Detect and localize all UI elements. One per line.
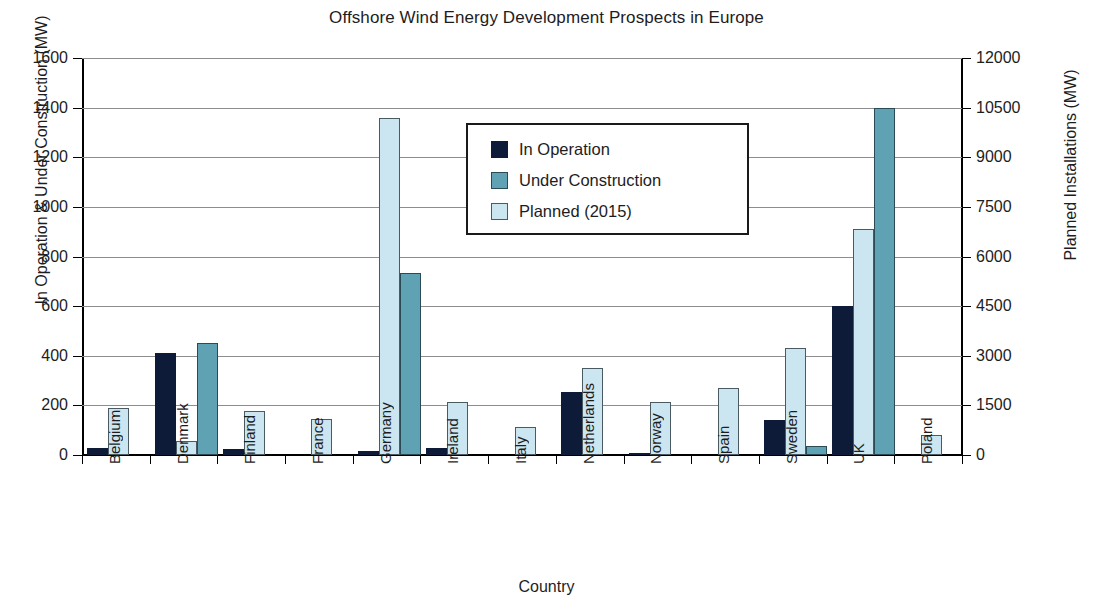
gridline bbox=[82, 257, 962, 258]
plot-area bbox=[82, 58, 962, 455]
y-axis-left-tick-label: 1600 bbox=[32, 49, 68, 67]
bar bbox=[155, 353, 176, 455]
y-axis-left-tick-label: 0 bbox=[59, 446, 68, 464]
x-axis-tick bbox=[894, 456, 895, 464]
x-axis-tick bbox=[962, 456, 963, 464]
x-axis-category-label: Belgium bbox=[106, 410, 123, 464]
y-axis-right-tick bbox=[962, 306, 971, 307]
y-axis-right-tick bbox=[962, 108, 971, 109]
bar bbox=[764, 420, 785, 455]
x-axis-tick bbox=[691, 456, 692, 464]
y-axis-right-tick-label: 4500 bbox=[976, 297, 1012, 315]
y-axis-left-tick bbox=[73, 405, 82, 406]
bar bbox=[561, 392, 582, 455]
y-axis-left-tick-label: 1000 bbox=[32, 198, 68, 216]
y-axis-left-tick bbox=[73, 455, 82, 456]
x-axis-category-label: UK bbox=[850, 443, 867, 464]
y-axis-left-tick bbox=[73, 356, 82, 357]
legend-label-planned: Planned (2015) bbox=[519, 202, 632, 221]
bar bbox=[400, 273, 421, 455]
y-axis-right-tick-label: 6000 bbox=[976, 248, 1012, 266]
y-axis-right-tick-label: 3000 bbox=[976, 347, 1012, 365]
gridline bbox=[82, 58, 962, 59]
x-axis-tick bbox=[759, 456, 760, 464]
x-axis-tick bbox=[353, 456, 354, 464]
x-axis-tick bbox=[150, 456, 151, 464]
x-axis-tick bbox=[82, 456, 83, 464]
x-axis-category-label: Spain bbox=[715, 426, 732, 464]
x-axis-tick bbox=[556, 456, 557, 464]
bar bbox=[806, 446, 827, 455]
legend-label-in-operation: In Operation bbox=[519, 140, 610, 159]
y-axis-right-tick-label: 1500 bbox=[976, 396, 1012, 414]
chart-title: Offshore Wind Energy Development Prospec… bbox=[0, 8, 1093, 28]
y-axis-right-tick-label: 10500 bbox=[976, 99, 1021, 117]
gridline bbox=[82, 108, 962, 109]
y-axis-right-tick bbox=[962, 356, 971, 357]
x-axis-category-label: France bbox=[309, 417, 326, 464]
bar bbox=[197, 343, 218, 455]
bar bbox=[87, 448, 108, 455]
y-axis-left-tick-label: 200 bbox=[41, 396, 68, 414]
legend-item-planned: Planned (2015) bbox=[491, 196, 747, 227]
x-axis-category-label: Netherlands bbox=[580, 383, 597, 464]
x-axis-tick bbox=[420, 456, 421, 464]
x-axis-tick bbox=[488, 456, 489, 464]
bar bbox=[874, 108, 895, 455]
y-axis-right-tick bbox=[962, 405, 971, 406]
legend-item-in-operation: In Operation bbox=[491, 134, 747, 165]
chart-legend: In Operation Under Construction Planned … bbox=[466, 123, 749, 235]
x-axis-tick bbox=[285, 456, 286, 464]
x-axis-tick bbox=[827, 456, 828, 464]
x-axis-category-label: Finland bbox=[241, 415, 258, 464]
legend-swatch-icon-under-construction bbox=[491, 172, 508, 189]
y-axis-left-tick bbox=[73, 257, 82, 258]
y-axis-right-tick bbox=[962, 257, 971, 258]
y-axis-left-tick-label: 600 bbox=[41, 297, 68, 315]
x-axis-category-label: Norway bbox=[647, 413, 664, 464]
y-axis-left-tick bbox=[73, 207, 82, 208]
y-axis-right-tick-label: 12000 bbox=[976, 49, 1021, 67]
y-axis-right-tick bbox=[962, 58, 971, 59]
y-axis-right-tick bbox=[962, 157, 971, 158]
x-axis-category-label: Denmark bbox=[174, 403, 191, 464]
bar bbox=[832, 306, 853, 455]
x-axis-tick bbox=[217, 456, 218, 464]
bar bbox=[358, 451, 379, 455]
legend-item-under-construction: Under Construction bbox=[491, 165, 747, 196]
legend-swatch-icon-in-operation bbox=[491, 141, 508, 158]
x-axis-category-label: Poland bbox=[918, 417, 935, 464]
y-axis-left-tick-label: 800 bbox=[41, 248, 68, 266]
y-axis-right-tick-label: 9000 bbox=[976, 148, 1012, 166]
y-axis-right-tick-label: 7500 bbox=[976, 198, 1012, 216]
legend-swatch-icon-planned bbox=[491, 203, 508, 220]
y-axis-left-tick-label: 1400 bbox=[32, 99, 68, 117]
y-axis-left-tick bbox=[73, 108, 82, 109]
x-axis-title: Country bbox=[0, 578, 1093, 596]
y-axis-left-tick bbox=[73, 58, 82, 59]
y-axis-right-title: Planned Installations (MW) bbox=[1061, 20, 1081, 310]
gridline bbox=[82, 306, 962, 307]
bar bbox=[853, 229, 874, 455]
x-axis-category-label: Ireland bbox=[444, 418, 461, 464]
y-axis-left-tick bbox=[73, 157, 82, 158]
legend-label-under-construction: Under Construction bbox=[519, 171, 661, 190]
x-axis-category-label: Sweden bbox=[783, 410, 800, 464]
x-axis-category-label: Italy bbox=[512, 436, 529, 464]
y-axis-left-tick-label: 1200 bbox=[32, 148, 68, 166]
y-axis-left-tick bbox=[73, 306, 82, 307]
x-axis-tick bbox=[624, 456, 625, 464]
y-axis-right-tick bbox=[962, 207, 971, 208]
chart-figure: Offshore Wind Energy Development Prospec… bbox=[0, 0, 1093, 612]
y-axis-right-tick-label: 0 bbox=[976, 446, 985, 464]
y-axis-right-tick bbox=[962, 455, 971, 456]
x-axis-category-label: Germany bbox=[377, 402, 394, 464]
y-axis-left-tick-label: 400 bbox=[41, 347, 68, 365]
